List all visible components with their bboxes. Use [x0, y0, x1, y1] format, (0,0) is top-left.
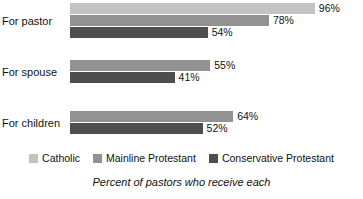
- legend-label: Catholic: [42, 152, 80, 164]
- plot-area: For pastor96%78%54%For spouse55%41%For c…: [0, 0, 363, 148]
- chart-caption: Percent of pastors who receive each: [0, 176, 363, 188]
- bar-value-label: 52%: [207, 122, 228, 134]
- bar-value-label: 96%: [319, 2, 340, 14]
- category-label: For spouse: [2, 66, 66, 78]
- legend-swatch-icon: [93, 154, 102, 163]
- bar-chart: For pastor96%78%54%For spouse55%41%For c…: [0, 0, 363, 199]
- category-label: For children: [2, 117, 66, 129]
- legend-item[interactable]: Mainline Protestant: [93, 152, 196, 164]
- bar[interactable]: [70, 111, 233, 122]
- bar[interactable]: [70, 60, 210, 71]
- bar[interactable]: [70, 72, 175, 83]
- legend-swatch-icon: [209, 154, 218, 163]
- legend-swatch-icon: [29, 154, 38, 163]
- bar[interactable]: [70, 123, 203, 134]
- bar-value-label: 64%: [237, 110, 258, 122]
- category-label: For pastor: [2, 15, 66, 27]
- legend-label: Conservative Protestant: [222, 152, 334, 164]
- bar[interactable]: [70, 15, 269, 26]
- chart-legend: CatholicMainline ProtestantConservative …: [0, 152, 363, 164]
- legend-label: Mainline Protestant: [106, 152, 196, 164]
- legend-item[interactable]: Catholic: [29, 152, 80, 164]
- bar[interactable]: [70, 3, 315, 14]
- bar-value-label: 55%: [214, 59, 235, 71]
- bar-value-label: 41%: [179, 71, 200, 83]
- bar-value-label: 78%: [273, 14, 294, 26]
- bar[interactable]: [70, 27, 208, 38]
- legend-item[interactable]: Conservative Protestant: [209, 152, 334, 164]
- bar-value-label: 54%: [212, 26, 233, 38]
